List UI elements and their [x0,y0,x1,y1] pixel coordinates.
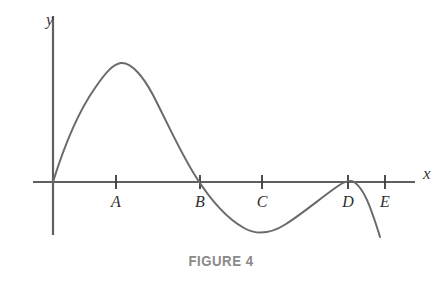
tick-label-e: E [379,193,390,210]
figure-container: A B C D E x y FIGURE 4 [0,0,442,288]
function-curve [53,63,380,237]
tick-label-d: D [341,193,354,210]
tick-label-b: B [195,193,205,210]
figure-caption: FIGURE 4 [27,252,416,269]
graph-plot: A B C D E x y [0,0,442,288]
x-axis-label: x [422,164,431,183]
tick-label-c: C [257,193,268,210]
y-axis-label: y [44,10,54,29]
tick-label-a: A [110,193,121,210]
